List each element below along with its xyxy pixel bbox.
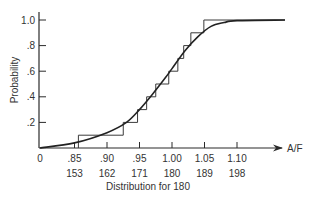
x-tick-sub-label: 171	[131, 168, 148, 179]
cumulative-distribution-chart: .2.4.6.81.0 .85153.90162.951711.001801.0…	[0, 0, 313, 201]
x-tick-sub-label: 189	[196, 168, 213, 179]
y-tick-label: 1.0	[21, 15, 35, 26]
y-tick-label: .6	[27, 66, 36, 77]
x-tick-label: 1.05	[195, 153, 215, 164]
x-tick-sub-label: 153	[66, 168, 83, 179]
origin-label: 0	[37, 153, 43, 164]
x-tick-label: 1.00	[162, 153, 182, 164]
y-tick-label: .8	[27, 40, 36, 51]
y-tick-label: .2	[27, 117, 36, 128]
x-tick-sub-label: 198	[229, 168, 246, 179]
x-tick-sub-label: 180	[164, 168, 181, 179]
x-axis-secondary-label: Distribution for 180	[106, 181, 190, 192]
x-tick-label: .95	[133, 153, 147, 164]
y-axis-label: Probability	[9, 57, 20, 104]
y-tick-label: .4	[27, 91, 36, 102]
x-tick-label: .85	[68, 153, 82, 164]
x-tick-label: 1.10	[227, 153, 247, 164]
step-distribution-line	[78, 20, 285, 148]
x-tick-label: .90	[100, 153, 114, 164]
x-axis-label: A/F	[287, 143, 303, 154]
x-tick-sub-label: 162	[99, 168, 116, 179]
y-axis-ticks: .2.4.6.81.0	[21, 15, 46, 128]
